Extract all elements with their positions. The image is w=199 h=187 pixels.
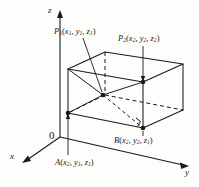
figure-canvas [0,0,199,187]
point-p2-dot [141,80,146,85]
box-edge-bottom-front-left [68,113,143,128]
right-angle-mark-b [136,118,141,127]
box-solid-edges [68,52,183,128]
z-axis-arrowhead [57,10,63,18]
point-b-dot [141,126,146,131]
point-p1-dot [101,93,106,98]
y-axis-label: y [185,168,189,177]
segment-p1-b [103,95,143,128]
b-close-paren: ) [150,135,153,145]
point-p1-label: P1(x1, y1, z1) [54,27,96,36]
p2-close-paren: ) [157,33,160,43]
leader-p1 [83,38,102,92]
box-edge-hidden-bottom-right [105,95,183,110]
segment-p1-a [68,95,103,113]
x-axis-label: x [10,152,14,161]
point-a-label: A(x2, y1, z1) [55,158,94,167]
point-b-label: B(x2, y2, z1) [114,136,153,145]
point-p2-label: P2(x2, y2, z2) [118,34,160,43]
origin-label: 0 [49,130,55,141]
a-close-paren: ) [91,157,94,167]
point-a-dot [66,111,71,116]
z-axis-label: z [48,6,52,15]
geometry-figure: z y x 0 P1(x1, y1, z1) P2(x2, y2, z2) B(… [0,0,199,187]
p1-close-paren: ) [93,26,96,36]
x-axis-arrowhead [22,156,31,164]
segment-p1-top-left [68,69,103,95]
segment-p1-p2 [103,82,143,95]
box-top-face [68,52,183,82]
box-edge-bottom-right [143,110,183,128]
construction-lines-dashed [103,95,143,128]
